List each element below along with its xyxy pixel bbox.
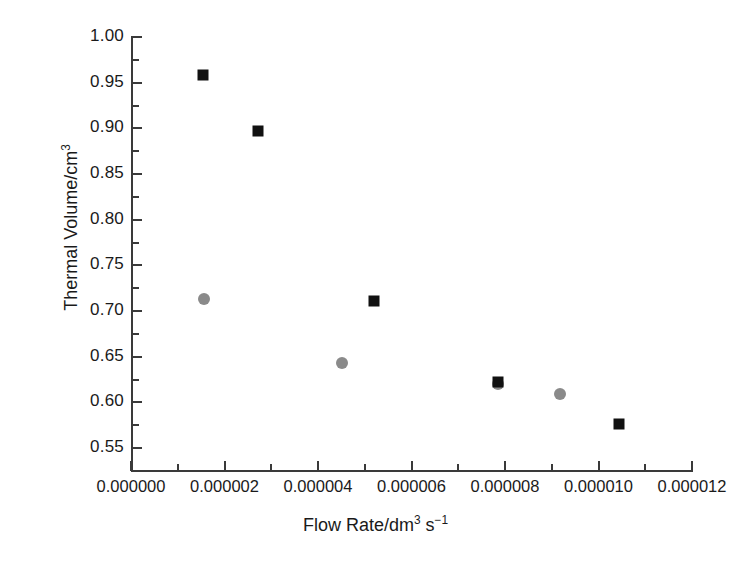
data-point-square xyxy=(197,70,208,81)
x-tick-label: 0.000006 xyxy=(377,477,446,496)
x-tick-label: 0.000012 xyxy=(658,477,727,496)
plot-area xyxy=(131,37,692,471)
x-tick-label: 0.000010 xyxy=(564,477,633,496)
series-black-squares xyxy=(131,37,692,471)
y-tick-label: 0.60 xyxy=(90,391,124,411)
scatter-chart: 0.550.600.650.700.750.800.850.900.951.00… xyxy=(0,0,751,565)
y-axis-title-wrapper: Thermal Volume/cm3 xyxy=(12,0,46,470)
x-axis-title: Flow Rate/dm3 s−1 xyxy=(0,515,751,536)
y-tick-label: 0.65 xyxy=(90,346,124,366)
x-tick-label: 0.000000 xyxy=(97,477,166,496)
data-point-square xyxy=(614,419,625,430)
y-tick-label: 0.95 xyxy=(90,72,124,92)
y-tick-label: 0.80 xyxy=(90,209,124,229)
y-tick-label: 1.00 xyxy=(90,26,124,46)
x-tick-label: 0.000004 xyxy=(284,477,353,496)
data-point-square xyxy=(369,296,380,307)
y-axis-title: Thermal Volume/cm3 xyxy=(61,38,82,418)
y-tick-label: 0.90 xyxy=(90,117,124,137)
y-tick-label: 0.55 xyxy=(90,437,124,457)
x-tick-label: 0.000008 xyxy=(471,477,540,496)
data-point-square xyxy=(253,126,264,137)
x-tick-label: 0.000002 xyxy=(190,477,259,496)
y-tick-label: 0.75 xyxy=(90,254,124,274)
y-tick-label: 0.70 xyxy=(90,300,124,320)
data-point-square xyxy=(492,377,503,388)
y-tick-label: 0.85 xyxy=(90,163,124,183)
